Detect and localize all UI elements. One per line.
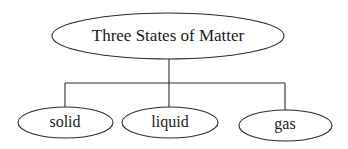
root-node-label: Three States of Matter [92,27,244,44]
solid-node-label: solid [49,114,80,130]
gas-node-label: gas [274,116,295,132]
liquid-node-label: liquid [151,114,188,130]
